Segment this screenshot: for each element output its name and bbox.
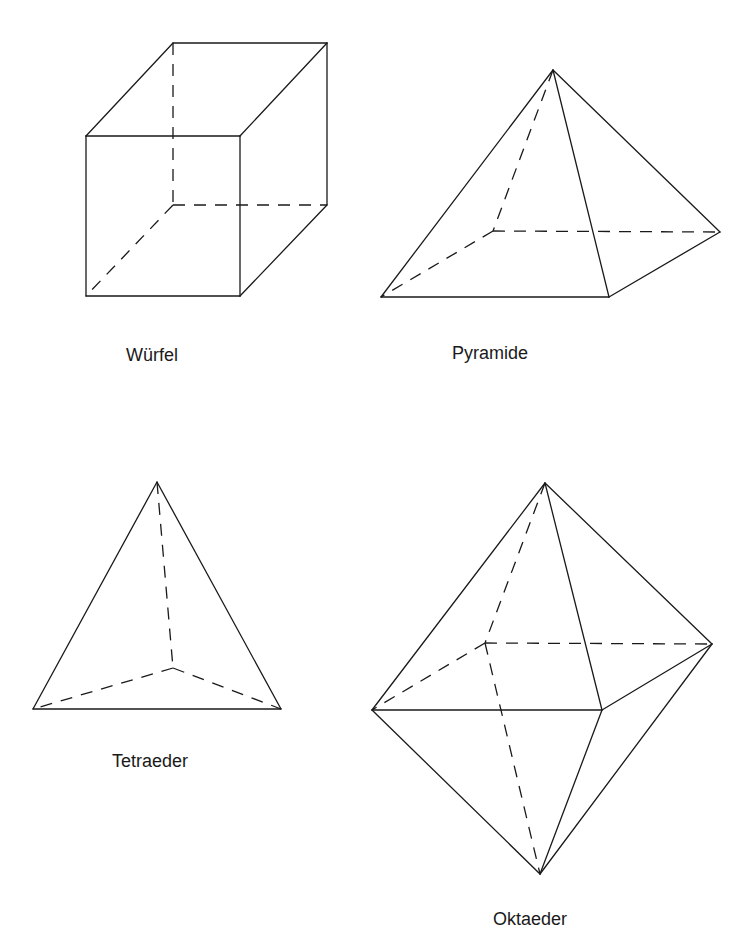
- visible-edge: [540, 644, 712, 874]
- octahedron-label: Oktaeder: [493, 909, 567, 929]
- visible-edge: [372, 710, 540, 874]
- visible-edge: [540, 710, 602, 874]
- hidden-edge: [381, 231, 493, 297]
- visible-edge: [609, 232, 720, 297]
- visible-edge: [545, 483, 712, 644]
- pyramid-label: Pyramide: [452, 343, 528, 363]
- hidden-edge: [493, 70, 553, 231]
- visible-edge: [381, 70, 553, 297]
- hidden-edge: [485, 483, 545, 643]
- visible-edge: [33, 482, 157, 709]
- visible-edge: [372, 483, 545, 710]
- pyramid-figure: [381, 70, 720, 297]
- visible-edge: [240, 205, 327, 296]
- visible-edge: [553, 70, 720, 232]
- visible-edge: [240, 43, 327, 136]
- visible-edge: [553, 70, 609, 297]
- tetrahedron-label: Tetraeder: [112, 751, 188, 771]
- hidden-edge: [86, 205, 173, 296]
- visible-edge: [545, 483, 602, 710]
- hidden-edge: [485, 643, 540, 874]
- hidden-edge: [485, 643, 712, 644]
- hidden-edge: [493, 231, 720, 232]
- polyhedra-diagram: Würfel Pyramide Tetraeder Oktaeder: [0, 0, 751, 944]
- hidden-edge: [33, 668, 173, 709]
- hidden-edge: [173, 668, 281, 709]
- cube-label: Würfel: [126, 345, 178, 365]
- cube-figure: [86, 43, 327, 296]
- visible-edge: [157, 482, 281, 709]
- hidden-edge: [157, 482, 173, 668]
- octahedron-figure: [372, 483, 712, 874]
- visible-edge: [86, 43, 173, 136]
- tetrahedron-figure: [33, 482, 281, 709]
- hidden-edge: [372, 643, 485, 710]
- visible-edge: [602, 644, 712, 710]
